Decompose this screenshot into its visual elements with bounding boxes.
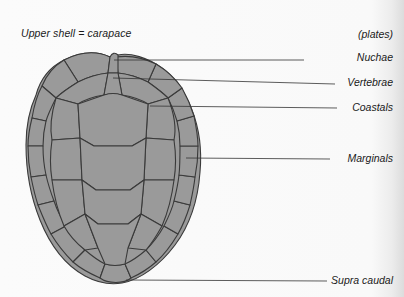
leader-supra-caudal <box>126 280 327 281</box>
label-supra-caudal: Supra caudal <box>331 274 393 286</box>
label-vertebrae: Vertebrae <box>347 76 393 88</box>
vertebra-2 <box>78 94 148 147</box>
vertebra-3 <box>80 138 146 190</box>
legend-header: (plates) <box>358 28 393 40</box>
leader-marginals <box>186 158 330 159</box>
carapace-shell <box>26 53 201 284</box>
carapace-diagram <box>0 0 404 297</box>
label-nuchae: Nuchae <box>357 51 393 63</box>
label-coastals: Coastals <box>352 101 393 113</box>
label-marginals: Marginals <box>347 152 393 164</box>
